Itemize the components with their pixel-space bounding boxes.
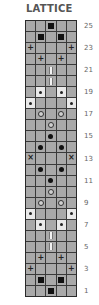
plus-icon: + — [58, 55, 65, 63]
grid-cell — [67, 209, 76, 219]
grid-cell — [57, 43, 66, 53]
grid-cell: + — [26, 43, 35, 53]
grid-cell — [46, 209, 55, 219]
grid-cell: + — [26, 264, 35, 274]
grid-cell — [26, 165, 35, 175]
grid-cell — [26, 209, 35, 219]
grid-cell — [46, 109, 55, 119]
chart-title: LATTICE — [26, 3, 73, 15]
grid-cell — [46, 275, 55, 285]
grid-cell — [26, 187, 35, 197]
grid-cell — [26, 142, 35, 152]
grid-cell — [57, 87, 66, 97]
ring-icon — [38, 111, 44, 117]
grid-cell — [57, 109, 66, 119]
grid-cell — [36, 231, 45, 241]
grid-cell — [46, 120, 55, 130]
grid-cell — [26, 54, 35, 64]
grid-cell — [67, 98, 76, 108]
grid-cell — [67, 109, 76, 119]
plus-icon: + — [27, 44, 34, 52]
grid-cell — [67, 21, 76, 31]
grid-cell — [57, 176, 66, 186]
grid-cell — [36, 120, 45, 130]
grid-cell — [57, 65, 66, 75]
grid-cell — [36, 153, 45, 163]
grid-cell — [46, 65, 55, 75]
grid-cell — [57, 98, 66, 108]
square-icon — [48, 23, 54, 29]
grid-cell — [67, 176, 76, 186]
plus-icon: + — [68, 44, 75, 52]
grid-cell — [36, 275, 45, 285]
plus-icon: + — [27, 265, 34, 273]
grid-cell — [67, 187, 76, 197]
cross-icon: × — [27, 154, 34, 162]
dot-icon — [70, 102, 73, 105]
grid-cell — [46, 231, 55, 241]
grid-cell — [67, 231, 76, 241]
square-icon — [58, 34, 64, 40]
plus-icon: + — [58, 254, 65, 262]
ring-icon — [38, 200, 44, 206]
grid-cell — [46, 286, 55, 296]
grid-cell — [36, 220, 45, 230]
bigdot-icon — [48, 178, 53, 183]
grid-cell — [36, 76, 45, 86]
grid-cell — [26, 120, 35, 130]
grid-cell — [57, 275, 66, 285]
grid-cell — [26, 198, 35, 208]
row-label-23: 23 — [84, 44, 99, 52]
dot-icon — [70, 212, 73, 215]
row-label-5: 5 — [84, 243, 99, 251]
bar-icon — [49, 67, 53, 74]
grid-cell — [67, 87, 76, 97]
grid-cell: × — [26, 153, 35, 163]
grid-cell — [26, 65, 35, 75]
grid-cell: + — [67, 43, 76, 53]
grid-cell — [57, 264, 66, 274]
grid-cell — [57, 286, 66, 296]
grid-cell — [67, 54, 76, 64]
grid-cell — [46, 220, 55, 230]
grid-cell: + — [67, 264, 76, 274]
row-label-15: 15 — [84, 132, 99, 140]
grid-cell — [46, 153, 55, 163]
grid-cell — [36, 176, 45, 186]
grid-cell — [67, 198, 76, 208]
grid-cell — [46, 176, 55, 186]
grid-cell — [46, 76, 55, 86]
grid-cell — [36, 187, 45, 197]
grid-cell — [57, 32, 66, 42]
row-label-19: 19 — [84, 88, 99, 96]
grid-cell — [67, 142, 76, 152]
grid-cell — [67, 131, 76, 141]
grid-cell — [57, 165, 66, 175]
dot-icon — [39, 91, 42, 94]
square-icon — [58, 277, 64, 283]
bigdot-icon — [59, 145, 64, 150]
grid-cell — [67, 76, 76, 86]
dot-icon — [60, 91, 63, 94]
grid-cell — [57, 153, 66, 163]
grid-cell — [26, 242, 35, 252]
bar-icon — [49, 232, 53, 239]
grid-cell — [67, 286, 76, 296]
bigdot-icon — [48, 134, 53, 139]
grid-cell: + — [36, 253, 45, 263]
square-icon — [48, 288, 54, 294]
grid-cell — [26, 21, 35, 31]
grid-cell — [57, 21, 66, 31]
dot-icon — [39, 223, 42, 226]
bigdot-icon — [38, 145, 43, 150]
grid-cell — [67, 253, 76, 263]
grid-cell — [67, 275, 76, 285]
grid-cell — [26, 32, 35, 42]
grid-cell — [57, 131, 66, 141]
grid-cell — [46, 43, 55, 53]
ring-icon — [58, 111, 64, 117]
grid-cell — [26, 275, 35, 285]
dot-icon — [29, 102, 32, 105]
grid-cell: + — [57, 54, 66, 64]
grid-cell — [26, 131, 35, 141]
